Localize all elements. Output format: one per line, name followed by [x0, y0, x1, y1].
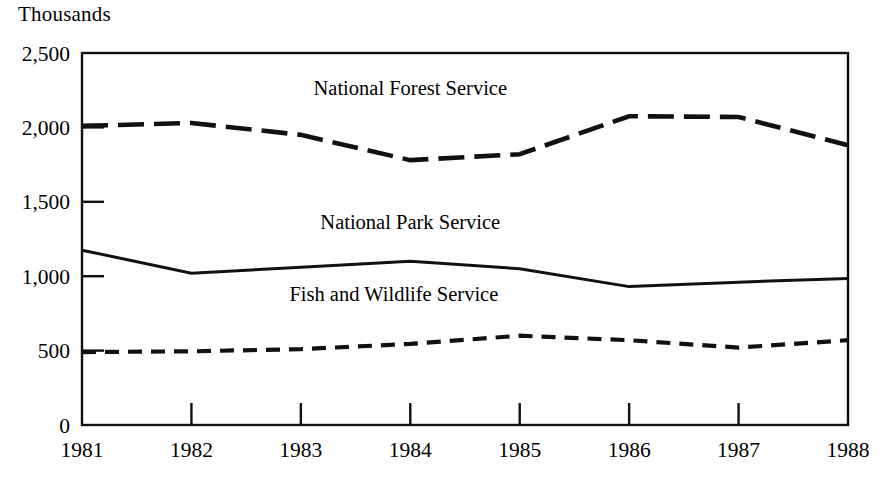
x-tick-label-1982: 1982 — [170, 438, 213, 462]
plot-frame — [82, 53, 848, 425]
y-tick-label-500: 500 — [38, 339, 70, 363]
y-tick-label-1000: 1,000 — [22, 265, 70, 289]
series-annotations: National Forest ServiceNational Park Ser… — [289, 77, 507, 306]
line-chart: Thousands 05001,0001,5002,0002,500 19811… — [0, 0, 880, 494]
y-axis-ticks: 05001,0001,5002,0002,500 — [22, 42, 104, 438]
series-label-1: National Park Service — [320, 211, 500, 233]
series-label-0: National Forest Service — [314, 77, 508, 99]
y-tick-label-2500: 2,500 — [22, 42, 70, 66]
chart-canvas: 05001,0001,5002,0002,500 198119821983198… — [0, 0, 880, 494]
x-tick-label-1981: 1981 — [61, 438, 104, 462]
x-tick-label-1985: 1985 — [498, 438, 541, 462]
series-label-2: Fish and Wildlife Service — [289, 283, 498, 305]
x-tick-label-1986: 1986 — [608, 438, 651, 462]
series-line-0 — [82, 116, 848, 160]
series-line-1 — [82, 250, 848, 286]
data-series-group — [82, 116, 848, 352]
y-tick-label-0: 0 — [59, 414, 70, 438]
y-tick-label-1500: 1,500 — [22, 190, 70, 214]
x-axis-ticks: 19811982198319841985198619871988 — [61, 403, 870, 462]
y-tick-label-2000: 2,000 — [22, 116, 70, 140]
x-tick-label-1988: 1988 — [827, 438, 870, 462]
x-tick-label-1984: 1984 — [389, 438, 432, 462]
x-tick-label-1983: 1983 — [279, 438, 322, 462]
x-tick-label-1987: 1987 — [717, 438, 760, 462]
series-line-2 — [82, 336, 848, 352]
